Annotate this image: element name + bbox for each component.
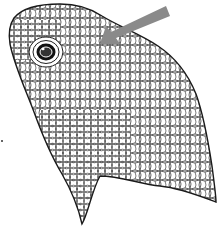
stray-mark bbox=[1, 140, 3, 142]
eye-icon bbox=[29, 37, 63, 67]
lizard-head-figure bbox=[0, 0, 220, 232]
lizard-head-drawing bbox=[0, 0, 220, 232]
